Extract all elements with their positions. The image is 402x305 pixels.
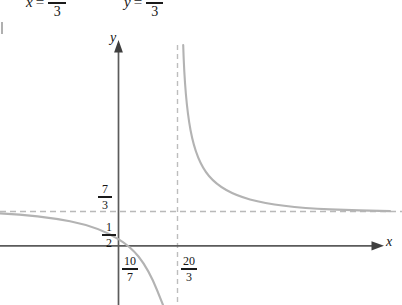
label-x-asymptote-value: 20 3: [181, 250, 197, 282]
label-y-intercept: 1 2: [102, 216, 116, 248]
fraction-10-7: 10 7: [122, 255, 138, 283]
fraction-20-3: 20 3: [181, 255, 197, 283]
denominator: 7: [125, 270, 135, 283]
label-x-intercept: 10 7: [122, 250, 138, 282]
numerator: 7: [100, 183, 110, 196]
denominator: 2: [104, 236, 114, 249]
curve-right-branch: [183, 45, 390, 211]
x-axis-label: x: [386, 234, 392, 250]
numerator: 1: [104, 221, 114, 234]
numerator: 20: [181, 255, 197, 268]
denominator: 3: [100, 198, 110, 211]
curve-left-branch: [0, 213, 163, 305]
label-y-asymptote-value: 7 3: [98, 178, 112, 210]
y-axis-label: y: [110, 30, 116, 46]
denominator: 3: [184, 270, 194, 283]
fraction-7-3: 7 3: [98, 183, 112, 211]
fraction-1-2: 1 2: [102, 221, 116, 249]
numerator: 10: [122, 255, 138, 268]
figure-canvas: x = 20 3 y = 7 3: [0, 0, 402, 305]
hyperbola-graph: [0, 0, 402, 305]
x-axis-arrowhead-icon: [372, 241, 385, 250]
